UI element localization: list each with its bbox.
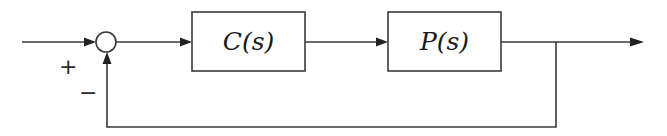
plant-input-arrowhead — [376, 38, 388, 47]
controller-input-arrowhead — [180, 38, 192, 47]
controller-block: C(s) — [192, 12, 305, 71]
plus-sign: + — [59, 54, 77, 79]
plant-label: P(s) — [419, 27, 469, 56]
block-diagram: + − C(s) P(s) — [0, 0, 667, 136]
feedback-arrowhead — [103, 52, 112, 64]
summing-junction — [96, 32, 116, 52]
controller-label: C(s) — [223, 27, 274, 56]
plant-block: P(s) — [388, 12, 501, 71]
input-arrowhead — [84, 38, 96, 47]
output-arrowhead — [630, 38, 644, 47]
minus-sign: − — [79, 80, 97, 105]
